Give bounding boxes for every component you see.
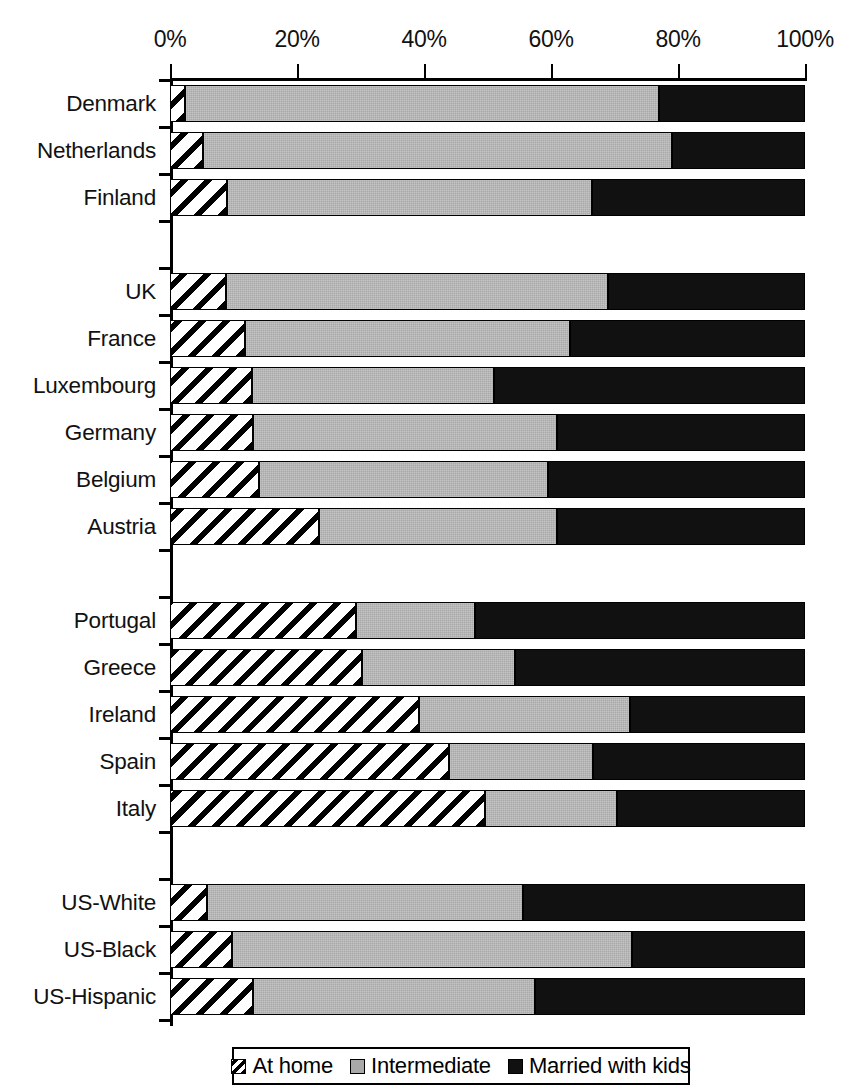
- category-label-us-white: US-White: [0, 892, 156, 915]
- x-axis-tick: [805, 64, 807, 78]
- bar-row: [170, 320, 805, 357]
- segment-married-with-kids: [630, 696, 805, 733]
- bar-row: [170, 273, 805, 310]
- bar-row: [170, 508, 805, 545]
- segment-at-home: [170, 790, 485, 827]
- category-label-uk: UK: [0, 281, 156, 304]
- segment-intermediate: [362, 649, 515, 686]
- segment-intermediate: [252, 367, 494, 404]
- category-label-us-hispanic: US-Hispanic: [0, 986, 156, 1009]
- category-label-germany: Germany: [0, 422, 156, 445]
- y-axis-tick: [159, 690, 170, 693]
- y-axis-tick: [159, 643, 170, 646]
- bar-row: [170, 931, 805, 968]
- bar-row: [170, 461, 805, 498]
- segment-at-home: [170, 461, 259, 498]
- legend-item-at-home: At home: [231, 1055, 333, 1077]
- segment-intermediate: [449, 743, 593, 780]
- segment-intermediate: [253, 414, 558, 451]
- segment-at-home: [170, 179, 227, 216]
- bar-row: [170, 696, 805, 733]
- segment-married-with-kids: [672, 132, 805, 169]
- x-tick-label-100: 100%: [776, 28, 834, 51]
- segment-intermediate: [226, 273, 608, 310]
- category-label-finland: Finland: [0, 187, 156, 210]
- bar-row: [170, 884, 805, 921]
- category-label-ireland: Ireland: [0, 704, 156, 727]
- segment-at-home: [170, 414, 253, 451]
- y-axis-tick: [159, 455, 170, 458]
- segment-intermediate: [419, 696, 630, 733]
- segment-married-with-kids: [617, 790, 805, 827]
- segment-at-home: [170, 85, 185, 122]
- bar-row: [170, 414, 805, 451]
- category-label-luxembourg: Luxembourg: [0, 375, 156, 398]
- segment-intermediate: [185, 85, 659, 122]
- segment-intermediate: [253, 978, 536, 1015]
- segment-married-with-kids: [557, 508, 805, 545]
- bar-row: [170, 978, 805, 1015]
- segment-married-with-kids: [593, 743, 805, 780]
- segment-married-with-kids: [659, 85, 805, 122]
- category-label-netherlands: Netherlands: [0, 140, 156, 163]
- y-axis-tick: [159, 878, 170, 881]
- segment-at-home: [170, 743, 449, 780]
- segment-intermediate: [485, 790, 617, 827]
- y-axis-tick: [159, 173, 170, 176]
- bar-row: [170, 743, 805, 780]
- y-axis-tick: [159, 126, 170, 129]
- segment-intermediate: [203, 132, 672, 169]
- segment-at-home: [170, 508, 319, 545]
- category-label-us-black: US-Black: [0, 939, 156, 962]
- y-axis-tick: [159, 267, 170, 270]
- x-tick-label-0: 0%: [154, 28, 187, 51]
- segment-married-with-kids: [523, 884, 805, 921]
- category-label-austria: Austria: [0, 516, 156, 539]
- segment-intermediate: [245, 320, 570, 357]
- segment-intermediate: [259, 461, 548, 498]
- y-axis-tick: [159, 408, 170, 411]
- black-swatch-icon: [508, 1059, 523, 1074]
- bar-row: [170, 367, 805, 404]
- segment-at-home: [170, 132, 203, 169]
- segment-married-with-kids: [548, 461, 805, 498]
- bar-row: [170, 85, 805, 122]
- segment-at-home: [170, 884, 207, 921]
- segment-married-with-kids: [515, 649, 805, 686]
- y-axis-tick: [159, 1019, 170, 1022]
- category-label-belgium: Belgium: [0, 469, 156, 492]
- legend-item-married-with-kids: Married with kids: [508, 1055, 691, 1077]
- y-axis-tick: [159, 361, 170, 364]
- segment-intermediate: [356, 602, 475, 639]
- legend-item-intermediate: Intermediate: [350, 1055, 491, 1077]
- segment-at-home: [170, 978, 253, 1015]
- y-axis-tick: [159, 784, 170, 787]
- category-label-portugal: Portugal: [0, 610, 156, 633]
- segment-at-home: [170, 273, 226, 310]
- segment-at-home: [170, 649, 362, 686]
- y-axis-tick: [159, 314, 170, 317]
- x-axis-line: [170, 78, 807, 81]
- segment-married-with-kids: [535, 978, 805, 1015]
- segment-married-with-kids: [608, 273, 805, 310]
- y-axis-tick: [159, 549, 170, 552]
- x-tick-label-20: 20%: [274, 28, 319, 51]
- y-axis-tick: [159, 596, 170, 599]
- category-label-france: France: [0, 328, 156, 351]
- y-axis-tick: [159, 737, 170, 740]
- y-axis-tick: [159, 831, 170, 834]
- segment-at-home: [170, 696, 419, 733]
- bar-row: [170, 649, 805, 686]
- x-axis-tick: [170, 64, 172, 78]
- y-axis-tick: [159, 972, 170, 975]
- chart-legend: At homeIntermediateMarried with kids: [232, 1047, 690, 1085]
- x-tick-label-60: 60%: [528, 28, 573, 51]
- x-axis-tick: [551, 64, 553, 78]
- bar-row: [170, 602, 805, 639]
- x-axis-tick: [297, 64, 299, 78]
- segment-intermediate: [319, 508, 557, 545]
- category-label-denmark: Denmark: [0, 93, 156, 116]
- x-axis-tick: [424, 64, 426, 78]
- y-axis-tick: [159, 925, 170, 928]
